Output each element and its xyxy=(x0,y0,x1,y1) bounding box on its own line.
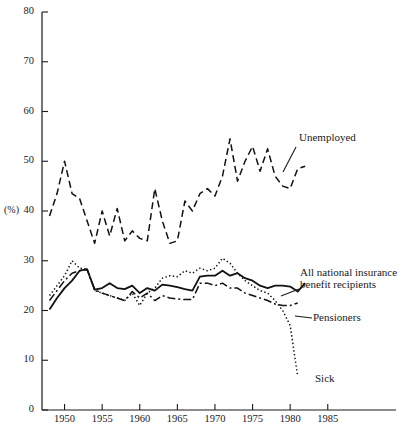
x-tick-label-1950: 1950 xyxy=(48,413,82,424)
x-tick-label-1980: 1980 xyxy=(273,413,307,424)
leader-unemployed xyxy=(283,147,296,172)
y-tick-label-50: 50 xyxy=(8,154,34,165)
series-label-all-ni-line1: All national insurance xyxy=(300,266,397,278)
series-label-unemployed: Unemployed xyxy=(299,132,356,144)
x-tick-label-1955: 1955 xyxy=(85,413,119,424)
y-tick-label-70: 70 xyxy=(8,55,34,66)
series-line-unemployed xyxy=(50,139,306,243)
y-tick-label-0: 0 xyxy=(8,403,34,414)
x-tick-label-1965: 1965 xyxy=(160,413,194,424)
chart-series-lines xyxy=(50,139,306,376)
x-tick-label-1985: 1985 xyxy=(311,413,345,424)
leader-all-national-insurance xyxy=(281,289,299,296)
chart-plot-area xyxy=(0,0,404,440)
series-label-pensioners: Pensioners xyxy=(313,312,361,324)
y-tick-label-30: 30 xyxy=(8,254,34,265)
y-tick-label-10: 10 xyxy=(8,353,34,364)
chart-axes xyxy=(42,12,396,410)
x-axis-ticks xyxy=(65,404,328,410)
series-line-all-national-insurance-benefit-recipients xyxy=(50,269,306,309)
y-tick-label-40: 40 xyxy=(8,204,34,215)
x-tick-label-1970: 1970 xyxy=(198,413,232,424)
y-tick-label-80: 80 xyxy=(8,5,34,16)
x-tick-label-1975: 1975 xyxy=(236,413,270,424)
chart-container: (%) 010203040506070801950195519601965197… xyxy=(0,0,404,440)
y-axis-ticks xyxy=(42,12,48,410)
series-label-all-ni-line2: benefit recipients xyxy=(300,278,376,290)
series-label-all-national-insurance: All national insurance benefit recipient… xyxy=(300,267,397,290)
series-line-sick xyxy=(50,258,298,376)
series-label-sick: Sick xyxy=(315,373,335,385)
y-tick-label-60: 60 xyxy=(8,105,34,116)
series-line-pensioners xyxy=(50,270,298,306)
x-tick-label-1960: 1960 xyxy=(123,413,157,424)
leader-pensioners xyxy=(295,316,312,318)
y-tick-label-20: 20 xyxy=(8,304,34,315)
